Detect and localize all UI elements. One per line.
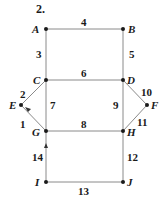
edge-label-13: 13 — [78, 186, 89, 197]
node-E — [19, 103, 23, 107]
edge-label-6: 6 — [81, 68, 87, 79]
edge-label-9: 9 — [113, 100, 119, 111]
node-G — [44, 129, 48, 133]
node-label-D: D — [127, 75, 135, 86]
node-label-I: I — [35, 177, 39, 188]
edge-label-12: 12 — [127, 152, 138, 163]
node-label-G: G — [32, 127, 40, 138]
edge-label-14: 14 — [32, 152, 43, 163]
graph-diagram — [0, 0, 163, 201]
edge-label-2: 2 — [20, 89, 26, 100]
problem-number: 2. — [36, 4, 45, 15]
node-label-A: A — [32, 24, 39, 35]
edge-label-10: 10 — [141, 87, 152, 98]
edge-label-5: 5 — [129, 49, 135, 60]
node-C — [44, 78, 48, 82]
node-J — [121, 180, 125, 184]
node-label-C: C — [33, 75, 40, 86]
edge-label-7: 7 — [50, 100, 56, 111]
node-label-H: H — [127, 127, 136, 138]
node-A — [44, 27, 48, 31]
node-B — [121, 27, 125, 31]
arrow-icon-edge-14 — [44, 143, 48, 148]
edge-label-1: 1 — [20, 119, 26, 130]
node-D — [121, 78, 125, 82]
node-label-J: J — [127, 177, 133, 188]
node-F — [145, 103, 149, 107]
node-label-B: B — [128, 24, 135, 35]
edge-label-4: 4 — [81, 17, 87, 28]
edge-label-8: 8 — [81, 119, 87, 130]
node-H — [121, 129, 125, 133]
node-label-F: F — [151, 100, 158, 111]
edge-label-3: 3 — [36, 49, 42, 60]
node-I — [44, 180, 48, 184]
edge-label-11: 11 — [137, 117, 147, 128]
node-label-E: E — [9, 100, 16, 111]
